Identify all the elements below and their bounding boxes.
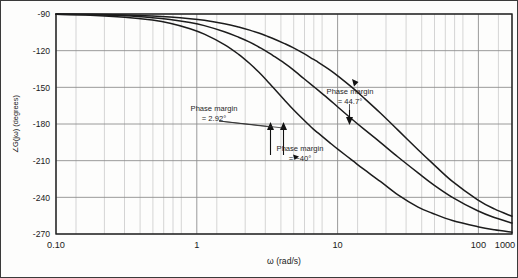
bode-phase-plot-figure: Phase margin = 2.92° Phase margin = 44.7… <box>0 0 518 278</box>
x-tick-label: 10 <box>332 240 342 250</box>
phase-margin-high-line2: = 44.7° <box>338 97 362 106</box>
chart-svg: Phase margin = 2.92° Phase margin = 44.7… <box>0 0 518 278</box>
y-tick-label: -90 <box>38 9 51 19</box>
y-tick-label: -120 <box>33 46 50 56</box>
phase-margin-negative-line1: Phase margin <box>277 144 324 153</box>
x-tick-label: 0.10 <box>47 240 65 250</box>
phase-margin-low-line2: = 2.92° <box>202 114 226 123</box>
y-tick-label: -180 <box>33 119 50 129</box>
x-tick-label: 100 <box>471 240 486 250</box>
x-tick-label: 1000 <box>495 240 515 250</box>
x-tick-label: 1 <box>194 240 199 250</box>
y-axis-label: ∠G(jω) (degrees) <box>11 95 20 153</box>
phase-margin-low-line1: Phase margin <box>191 104 238 113</box>
x-axis-label: ω (rad/s) <box>267 256 301 266</box>
y-tick-label: -150 <box>33 83 50 93</box>
phase-margin-high-line1: Phase margin <box>327 87 374 96</box>
y-tick-label: -210 <box>33 156 50 166</box>
y-tick-label: -240 <box>33 193 50 203</box>
y-tick-label: -270 <box>33 229 50 239</box>
phase-margin-negative-line2: = −40° <box>289 154 311 163</box>
figure-border <box>1 1 518 278</box>
